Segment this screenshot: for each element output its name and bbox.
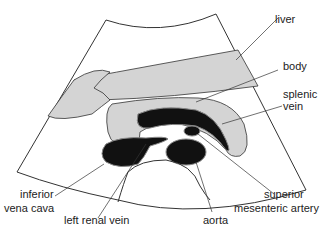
label-body: body bbox=[283, 60, 307, 72]
label-sma-2: mesenteric artery bbox=[234, 202, 319, 214]
label-left-renal-vein: left renal vein bbox=[64, 214, 129, 226]
ultrasound-diagram: liver body splenic vein inferior vena ca… bbox=[0, 0, 328, 236]
leader-liver bbox=[236, 18, 278, 60]
label-ivc-2: vena cava bbox=[4, 202, 54, 214]
diagram-drawing bbox=[0, 0, 328, 236]
superior-mesenteric-artery bbox=[184, 126, 200, 136]
label-ivc-1: inferior bbox=[20, 188, 54, 200]
label-splenic-vein-2: vein bbox=[283, 100, 303, 112]
label-sma-1: superior bbox=[264, 188, 304, 200]
label-liver: liver bbox=[275, 13, 295, 25]
label-splenic-vein-1: splenic bbox=[283, 88, 317, 100]
label-aorta: aorta bbox=[203, 214, 228, 226]
